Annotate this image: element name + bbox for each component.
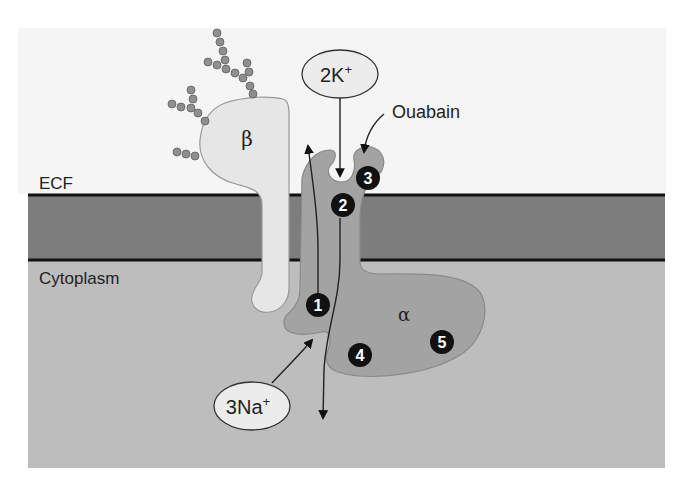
svg-text:5: 5 xyxy=(438,334,447,351)
step-badge-3: 3 xyxy=(356,166,380,190)
potassium-ion-bubble: 2K+ xyxy=(302,50,378,98)
sodium-label: 3Na xyxy=(226,396,264,418)
step-badge-5: 5 xyxy=(430,330,454,354)
beta-label: β xyxy=(241,127,253,151)
step-badge-2: 2 xyxy=(331,193,355,217)
sodium-charge: + xyxy=(263,394,271,409)
ouabain-label: Ouabain xyxy=(392,102,460,122)
svg-text:4: 4 xyxy=(356,347,365,364)
sodium-potassium-pump-diagram: β α 2K+ 3Na+ Ouabain xyxy=(0,0,688,480)
potassium-label: 2K xyxy=(320,64,345,86)
ecf-label: ECF xyxy=(39,174,73,193)
cytoplasm-label: Cytoplasm xyxy=(39,269,119,288)
svg-text:1: 1 xyxy=(314,297,323,314)
alpha-label: α xyxy=(398,304,410,325)
svg-text:3: 3 xyxy=(364,170,373,187)
sodium-ion-bubble: 3Na+ xyxy=(214,382,290,430)
svg-text:2: 2 xyxy=(339,197,348,214)
step-badge-1: 1 xyxy=(306,293,330,317)
step-badge-4: 4 xyxy=(348,343,372,367)
potassium-charge: + xyxy=(344,62,352,77)
